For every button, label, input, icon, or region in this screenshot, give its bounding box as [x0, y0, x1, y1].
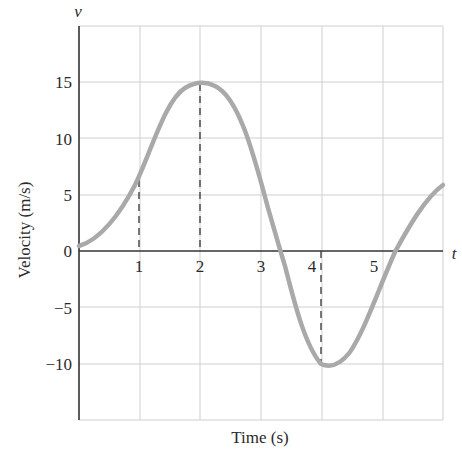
grid: [79, 26, 443, 420]
x-axis-title: Time (s): [231, 428, 288, 447]
y-tick-5: 5: [64, 186, 73, 205]
x-tick-labels: 1 2 3 4 5: [135, 257, 379, 276]
v-axis-symbol: v: [74, 2, 82, 21]
y-tick-labels: 15 10 5 0 −5 −10: [45, 73, 72, 374]
y-tick-m10: −10: [45, 355, 72, 374]
x-tick-1: 1: [135, 257, 144, 276]
y-axis-title: Velocity (m/s): [15, 182, 34, 279]
t-axis-symbol: t: [452, 244, 458, 263]
velocity-time-chart: v t 15 10 5 0 −5 −10 1 2 3 4 5 Time (s) …: [0, 0, 462, 449]
y-tick-15: 15: [55, 73, 72, 92]
x-tick-4: 4: [308, 257, 317, 276]
y-tick-0: 0: [64, 242, 73, 261]
y-tick-m5: −5: [54, 299, 72, 318]
x-tick-3: 3: [257, 257, 266, 276]
x-tick-2: 2: [196, 257, 205, 276]
x-tick-5: 5: [370, 257, 379, 276]
y-tick-10: 10: [55, 130, 72, 149]
dashed-markers: [139, 84, 321, 365]
